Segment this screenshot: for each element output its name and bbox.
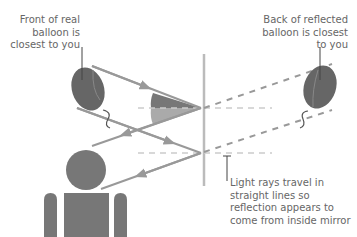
- person-icon: [44, 150, 127, 237]
- reflected-ray-lower-arrow: [140, 153, 201, 175]
- reflected-balloon-label: Back of reflected balloon is closest to …: [262, 14, 348, 52]
- light-rays-label: Light rays travel in straight lines so r…: [230, 177, 355, 227]
- real-balloon-label: Front of real balloon is closest to you: [8, 14, 80, 52]
- virtual-ray-lower: [204, 110, 332, 152]
